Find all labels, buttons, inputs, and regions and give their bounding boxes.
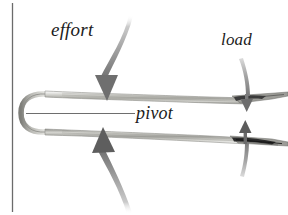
load-arrow-lower-stem	[244, 132, 247, 144]
pivot-label: pivot	[136, 104, 173, 122]
figure-container: effort load pivot	[0, 0, 288, 215]
effort-label: effort	[51, 20, 93, 39]
load-label: load	[221, 31, 252, 48]
